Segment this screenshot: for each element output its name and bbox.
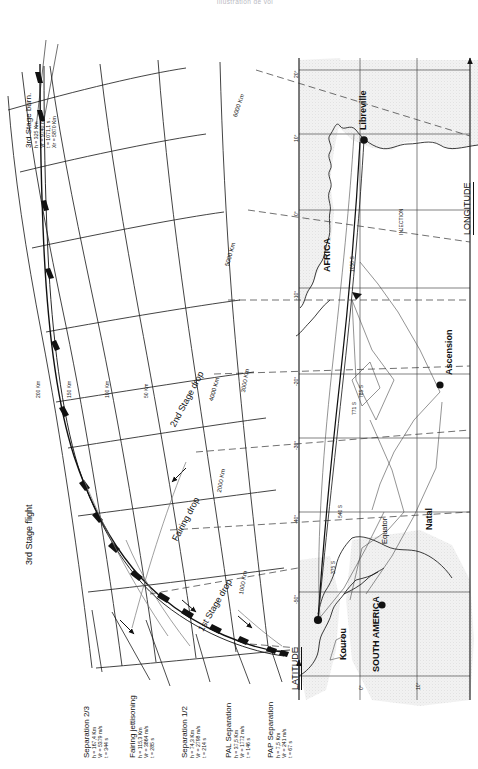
station-mark-1050s: 1050 S bbox=[349, 256, 355, 272]
south-america-line: SOUTH AMERICA bbox=[371, 596, 381, 672]
longitude-tick-0: 0° bbox=[358, 685, 364, 690]
map-landmass-shading bbox=[298, 58, 478, 706]
latitude-tick-0: 0° bbox=[293, 211, 299, 216]
event-4-name: PAP Separation bbox=[266, 702, 275, 758]
site-marker-ascension bbox=[436, 381, 443, 388]
event-0-line-2: t = 344 s bbox=[103, 706, 109, 758]
site-marker-libreville bbox=[360, 136, 368, 144]
altitude-tick-200: 200 Km bbox=[35, 381, 41, 398]
figure-root: Illustration de vol bbox=[0, 0, 478, 769]
event-1-name: Fairing jettisoning bbox=[128, 695, 137, 758]
site-label-ascension: Ascension bbox=[444, 329, 454, 375]
phase-label-3rd-stage-flight: 3rd Stage flight bbox=[24, 504, 34, 565]
annotation-pal-separation: PAL Separation h = 37,5 Km Vr = 1772 m/s… bbox=[224, 703, 251, 758]
event-3-name: PAL Separation bbox=[224, 703, 233, 758]
event-1-line-2: t = 285 s bbox=[149, 695, 155, 758]
altitude-tick-50: 50 Km bbox=[143, 384, 149, 398]
station-mark-785s: 785 S bbox=[358, 385, 364, 398]
debris-trajectories bbox=[84, 462, 282, 646]
event-3-line-2: t = 146 s bbox=[245, 703, 251, 758]
site-label-kourou: Kourou bbox=[338, 628, 348, 660]
annotation-3rd-stage-burnout: 3rd Stage burn. h = 325 Km Vr = 9740 m/s… bbox=[24, 93, 58, 148]
event-2-line-2: t = 214 s bbox=[201, 706, 207, 758]
longitude-tick-10: 10° bbox=[415, 682, 421, 690]
station-mark-540s: 540 S bbox=[337, 505, 343, 518]
injection-label: INJECTION bbox=[398, 209, 404, 235]
altitude-tick-150: 150 Km bbox=[66, 381, 72, 398]
continent-label-africa: AFRICA bbox=[322, 238, 332, 272]
site-marker-kourou bbox=[314, 616, 322, 624]
ascent-trajectory-curve bbox=[35, 40, 289, 657]
axis-title-longitude: LONGITUDE bbox=[462, 182, 474, 235]
annotation-pap-separation: PAP Separation h = 7,5 Km Vr = 241 m/s t… bbox=[266, 702, 293, 758]
equator-label: Equator bbox=[380, 518, 389, 544]
station-mark-771s: 771 S bbox=[351, 402, 357, 415]
burnout-line-4: Xr = 5870 Km bbox=[51, 93, 57, 148]
continent-label-south-america: SOUTH AMERICA bbox=[372, 596, 381, 672]
site-label-natal: Natal bbox=[424, 508, 434, 530]
latitude-tick-m30: -30° bbox=[293, 441, 299, 450]
event-4-line-2: t = 67 s bbox=[287, 702, 293, 758]
latitude-tick-m10: -10° bbox=[293, 291, 299, 300]
event-0-name: Separation 2/3 bbox=[82, 706, 91, 758]
burnout-title: 3rd Stage burn. bbox=[24, 93, 33, 148]
latitude-tick-m20: -20° bbox=[293, 377, 299, 386]
station-mark-375s: 375 S bbox=[330, 561, 336, 574]
annotation-fairing-jettisoning: Fairing jettisoning h = 115,3 Km Vr = 38… bbox=[128, 695, 155, 758]
event-2-name: Separation 1/2 bbox=[180, 706, 189, 758]
latitude-tick-m50: -50° bbox=[293, 595, 299, 604]
latitude-tick-20: 20° bbox=[293, 70, 299, 78]
latitude-tick-10: 10° bbox=[293, 134, 299, 142]
site-label-libreville: Libreville bbox=[358, 90, 368, 130]
altitude-tick-100: 100 Km bbox=[104, 381, 110, 398]
annotation-separation-1-2: Separation 1/2 h = 74,3 Km Vr = 2798 m/s… bbox=[180, 706, 207, 758]
axis-title-latitude: LATITUDE bbox=[290, 647, 302, 690]
latitude-tick-m40: -40° bbox=[293, 515, 299, 524]
annotation-separation-2-3: Separation 2/3 h = 167,4 Km Vr = 5379 m/… bbox=[82, 706, 109, 758]
